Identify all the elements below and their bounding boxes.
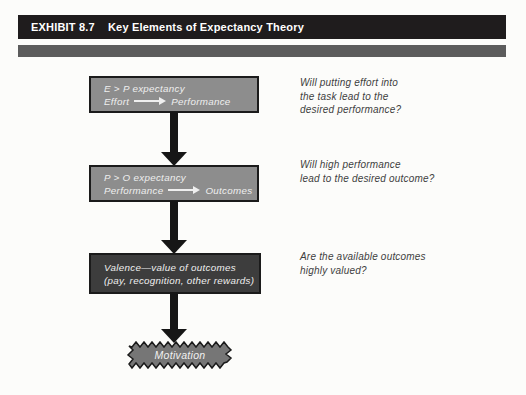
- motivation-label: Motivation: [155, 349, 206, 361]
- question-line: Are the available outcomes: [300, 250, 500, 264]
- burst-shape-icon: Motivation: [128, 341, 232, 369]
- arrow-head: [161, 240, 187, 254]
- box-subtitle: (pay, recognition, other rewards): [104, 274, 259, 287]
- box-effort-performance: E > P expectancy Effort Performance: [89, 76, 259, 113]
- right-arrow-icon: [168, 186, 200, 194]
- box-performance-outcomes: P > O expectancy Performance Outcomes: [89, 165, 259, 202]
- arrow-shaft: [170, 292, 178, 330]
- exhibit-figure: EXHIBIT 8.7 Key Elements of Expectancy T…: [0, 0, 526, 395]
- exhibit-number: EXHIBIT 8.7: [31, 21, 95, 33]
- arrow-shaft: [170, 201, 178, 241]
- question-line: highly valued?: [300, 264, 500, 278]
- box-flow-line: Performance Outcomes: [104, 184, 257, 197]
- box-valence: Valence—value of outcomes (pay, recognit…: [89, 253, 261, 294]
- exhibit-title: Key Elements of Expectancy Theory: [108, 21, 304, 33]
- question-line: Will putting effort into: [300, 76, 500, 90]
- question-line: lead to the desired outcome?: [300, 172, 500, 186]
- down-arrow-icon: [161, 201, 187, 254]
- flow-to-label: Outcomes: [205, 184, 252, 197]
- down-arrow-icon: [161, 112, 187, 166]
- question-effort-performance: Will putting effort into the task lead t…: [300, 76, 500, 117]
- exhibit-header-bar: EXHIBIT 8.7 Key Elements of Expectancy T…: [18, 15, 506, 39]
- question-line: desired performance?: [300, 103, 500, 117]
- box-title: P > O expectancy: [104, 171, 257, 184]
- arrow-shaft: [170, 112, 178, 153]
- question-performance-outcomes: Will high performance lead to the desire…: [300, 158, 500, 185]
- right-arrow-icon: [134, 97, 166, 105]
- down-arrow-icon: [161, 292, 187, 343]
- motivation-burst: Motivation: [128, 341, 232, 369]
- box-title: Valence—value of outcomes: [104, 261, 259, 274]
- flow-from-label: Effort: [104, 95, 129, 108]
- header-accent-bar: [18, 45, 506, 57]
- question-valence: Are the available outcomes highly valued…: [300, 250, 500, 277]
- box-flow-line: Effort Performance: [104, 95, 257, 108]
- question-line: Will high performance: [300, 158, 500, 172]
- flow-from-label: Performance: [104, 184, 163, 197]
- question-line: the task lead to the: [300, 90, 500, 104]
- flow-to-label: Performance: [171, 95, 230, 108]
- arrow-head: [161, 152, 187, 166]
- box-title: E > P expectancy: [104, 82, 257, 95]
